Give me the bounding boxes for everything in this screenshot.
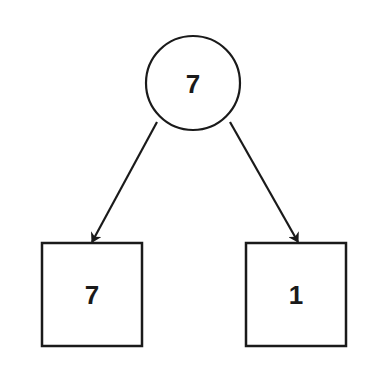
left-child-label: 7 — [85, 280, 99, 310]
root-node-label: 7 — [186, 69, 200, 99]
root-node: 7 — [146, 36, 240, 130]
tree-diagram: 7 7 1 — [0, 0, 369, 385]
left-child-node: 7 — [42, 243, 142, 346]
edge-root-to-left — [92, 122, 157, 242]
right-child-node: 1 — [246, 243, 346, 346]
right-child-label: 1 — [289, 280, 303, 310]
edge-root-to-right — [230, 122, 298, 242]
